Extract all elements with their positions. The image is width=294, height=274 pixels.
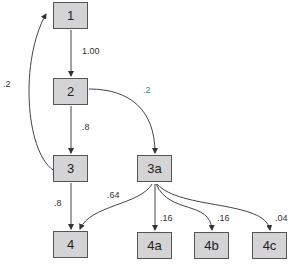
edge-label-3a-4c: .04	[275, 213, 288, 223]
node-4b: 4b	[194, 232, 229, 259]
edge-label-2-3a: .2	[143, 85, 151, 95]
node-4c: 4c	[252, 232, 287, 259]
edge-label-1-2: 1.00	[82, 46, 100, 56]
edge-label-3a-4a: .16	[160, 213, 173, 223]
edge-label-3a-4: .64	[107, 190, 120, 200]
node-1: 1	[53, 2, 88, 29]
edge-3a-4c	[157, 184, 270, 230]
edge-label-3-4: .8	[54, 198, 62, 208]
edge-3-1	[29, 14, 53, 170]
node-3: 3	[53, 155, 88, 182]
edge-label-3-1: .2	[3, 79, 11, 89]
node-4a: 4a	[137, 232, 172, 259]
node-3a: 3a	[137, 155, 172, 182]
node-2: 2	[53, 78, 88, 105]
node-4: 4	[53, 231, 88, 258]
edge-2-3a	[89, 89, 155, 153]
edge-label-3a-4b: .16	[217, 213, 230, 223]
edge-3a-4b	[156, 184, 212, 230]
edge-label-2-3: .8	[82, 122, 90, 132]
